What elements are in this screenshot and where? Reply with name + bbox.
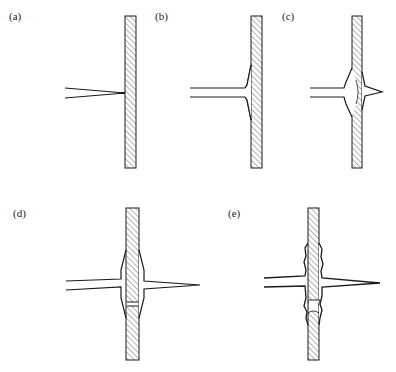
panel-a xyxy=(65,16,136,168)
panel-c xyxy=(310,16,382,168)
penetration-diagram xyxy=(0,0,396,372)
panel-d xyxy=(66,208,200,360)
panel-b xyxy=(190,16,262,168)
panel-e xyxy=(264,208,380,360)
